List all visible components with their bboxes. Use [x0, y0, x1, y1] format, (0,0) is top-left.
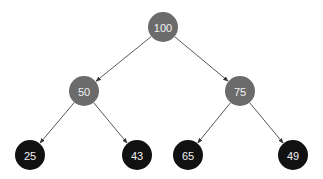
edge-50-to-43	[94, 103, 128, 144]
tree-node-65: 65	[173, 140, 203, 170]
node-label: 75	[234, 86, 246, 98]
tree-node-25: 25	[15, 140, 45, 170]
nodes-layer: 100507525436549	[15, 12, 308, 170]
tree-node-43: 43	[122, 140, 152, 170]
tree-node-49: 49	[278, 140, 308, 170]
node-label: 49	[287, 150, 299, 162]
node-label: 65	[182, 150, 194, 162]
tree-node-100: 100	[148, 12, 178, 42]
node-label: 100	[154, 22, 172, 34]
edge-50-to-25	[40, 102, 74, 143]
node-label: 50	[78, 86, 90, 98]
edge-75-to-49	[250, 103, 284, 144]
edge-75-to-65	[198, 103, 231, 143]
node-label: 25	[24, 150, 36, 162]
edge-100-to-75	[175, 37, 229, 82]
tree-node-50: 50	[69, 76, 99, 106]
tree-node-75: 75	[225, 76, 255, 106]
edge-100-to-50	[96, 36, 151, 81]
binary-tree-diagram: 100507525436549	[0, 0, 323, 179]
node-label: 43	[131, 150, 143, 162]
